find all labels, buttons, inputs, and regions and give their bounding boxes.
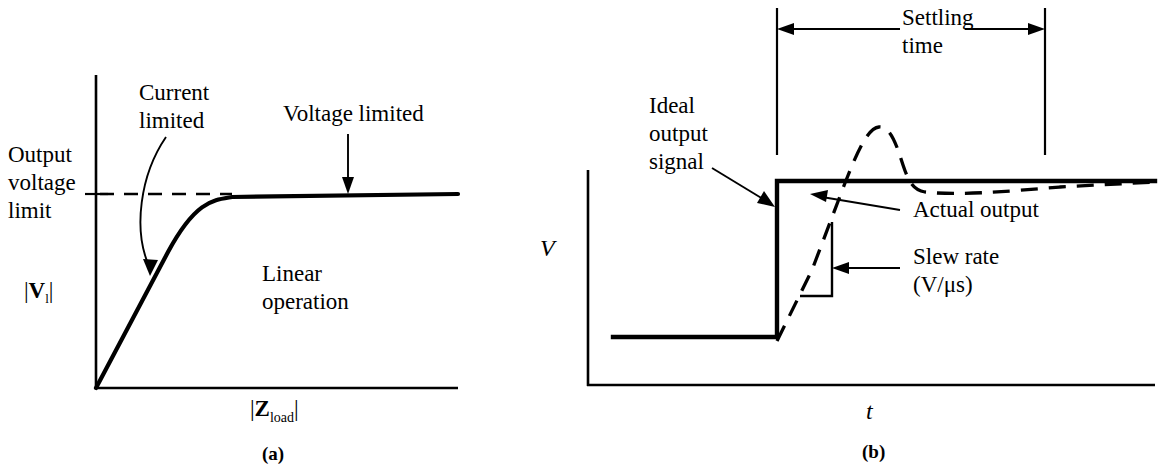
panel-a-y-axis-label: |Vl|: [24, 278, 53, 306]
slew-rate-label-line2: (V/μs): [913, 272, 973, 297]
panel-a-limit-label-line3: limit: [8, 198, 52, 223]
current-limited-label-line2: limited: [139, 108, 205, 133]
actual-output-trace: [777, 127, 1155, 341]
panel-b-y-axis-label: V: [540, 235, 557, 261]
ideal-output-leader-line: [712, 168, 763, 199]
panel-b: Settling time Ideal output signal Actual…: [540, 5, 1155, 463]
panel-a-limit-label-line1: Output: [8, 142, 73, 167]
current-limited-label-line1: Current: [139, 80, 210, 105]
voltage-limited-label: Voltage limited: [283, 101, 424, 126]
settling-time-label-line2: time: [902, 33, 943, 58]
panel-a-x-axis-label: |Zload|: [250, 396, 299, 425]
actual-output-label: Actual output: [913, 197, 1039, 222]
slew-rate-label-line1: Slew rate: [913, 244, 999, 269]
figure-container: Output voltage limit Current limited Vol…: [0, 0, 1159, 471]
ideal-output-label-line2: output: [649, 121, 708, 146]
ideal-output-label-line1: Ideal: [649, 93, 695, 118]
panel-b-caption: (b): [862, 441, 885, 463]
panel-a: Output voltage limit Current limited Vol…: [8, 75, 458, 465]
settling-time-left-arrowhead: [777, 23, 794, 35]
ideal-output-label-line3: signal: [649, 149, 704, 174]
ideal-output-signal-trace: [613, 181, 1155, 337]
settling-time-right-arrowhead: [1028, 23, 1045, 35]
panel-a-limit-label-line2: voltage: [8, 170, 76, 195]
actual-output-leader-line: [822, 197, 900, 210]
actual-output-arrowhead: [810, 190, 828, 202]
settling-time-label-line1: Settling: [902, 5, 974, 30]
figure-svg: Output voltage limit Current limited Vol…: [0, 0, 1159, 471]
linear-operation-label-line2: operation: [262, 289, 349, 314]
current-limited-leader-curve: [140, 137, 166, 266]
voltage-limited-arrowhead: [342, 177, 354, 194]
linear-operation-label-line1: Linear: [262, 261, 322, 286]
ideal-output-arrowhead: [757, 191, 775, 207]
slew-rate-arrowhead: [832, 262, 849, 274]
panel-a-caption: (a): [262, 443, 284, 465]
panel-b-x-axis-label: t: [866, 398, 874, 424]
